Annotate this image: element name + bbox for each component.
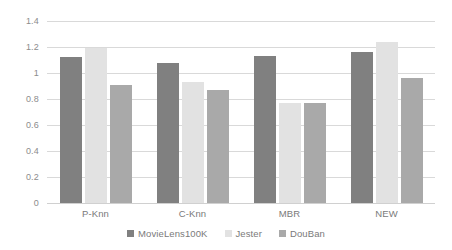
bar	[85, 48, 107, 203]
bar-group	[241, 21, 338, 203]
bar	[401, 78, 423, 203]
bar	[60, 57, 82, 203]
bar-group	[338, 21, 435, 203]
bar-chart: 00.20.40.60.811.21.4 P-KnnC-KnnMBRNEW Mo…	[0, 0, 452, 250]
bar	[110, 85, 132, 203]
y-axis-tick-label: 0.8	[0, 94, 39, 104]
x-axis-category-label: P-Knn	[47, 208, 144, 219]
legend-item[interactable]: DouBan	[279, 228, 325, 239]
bar	[254, 56, 276, 203]
bar	[207, 90, 229, 203]
bar-group	[144, 21, 241, 203]
plot-area	[47, 21, 435, 203]
chart-legend: MovieLens100KJesterDouBan	[0, 228, 452, 239]
legend-swatch-icon	[225, 230, 232, 237]
bar	[376, 42, 398, 203]
y-axis-tick-label: 0.4	[0, 146, 39, 156]
legend-label: DouBan	[290, 228, 325, 239]
y-axis-tick-label: 0.6	[0, 120, 39, 130]
legend-item[interactable]: MovieLens100K	[127, 228, 207, 239]
legend-item[interactable]: Jester	[225, 228, 262, 239]
legend-swatch-icon	[127, 230, 134, 237]
x-axis-category-label: C-Knn	[144, 208, 241, 219]
bar	[157, 63, 179, 203]
legend-swatch-icon	[279, 230, 286, 237]
y-axis-tick-label: 1.2	[0, 42, 39, 52]
y-axis-tick-label: 0	[0, 198, 39, 208]
y-axis-tick-label: 1.4	[0, 16, 39, 26]
bar	[279, 103, 301, 203]
legend-label: MovieLens100K	[138, 228, 207, 239]
bar-group	[47, 21, 144, 203]
bar	[182, 82, 204, 203]
bar	[304, 103, 326, 203]
bar	[351, 52, 373, 203]
x-axis-category-label: NEW	[338, 208, 435, 219]
gridline	[47, 203, 435, 204]
y-axis-tick-label: 0.2	[0, 172, 39, 182]
y-axis-tick-label: 1	[0, 68, 39, 78]
x-axis-category-label: MBR	[241, 208, 338, 219]
bars-layer	[47, 21, 435, 203]
legend-label: Jester	[236, 228, 262, 239]
